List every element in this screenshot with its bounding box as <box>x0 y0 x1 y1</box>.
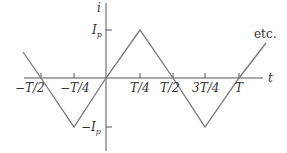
tick-label-three-t-quarter: 3T/4 <box>192 81 219 95</box>
ip-label: Ip <box>91 23 102 39</box>
tick-label-t-quarter: T/4 <box>130 81 150 95</box>
tick-label-t: T <box>235 81 244 95</box>
x-ticks <box>41 73 239 78</box>
x-axis-label: t <box>268 71 273 85</box>
y-axis-label: i <box>97 1 101 15</box>
waveform-diagram: i t Ip −Ip −T/2 −T/4 T/4 T/2 3T/4 T etc. <box>0 0 287 153</box>
tick-label-neg-t-quarter: −T/4 <box>60 81 90 95</box>
tick-label-neg-t-half: −T/2 <box>15 81 45 95</box>
neg-ip-label: −Ip <box>81 120 101 136</box>
tick-label-t-half: T/2 <box>160 81 180 95</box>
etc-annotation: etc. <box>254 27 276 41</box>
